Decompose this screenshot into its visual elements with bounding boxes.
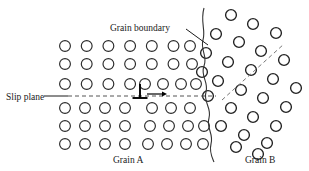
atom-grain-a	[81, 79, 92, 90]
atom-grain-a	[100, 139, 111, 150]
grain-b-label: Grain B	[245, 155, 275, 165]
atom-grain-a	[185, 103, 196, 114]
atom-grain-a	[140, 79, 151, 90]
atom-grain-b	[271, 28, 282, 39]
atom-grain-a	[146, 59, 157, 70]
grain-boundary-label: Grain boundary	[110, 23, 170, 33]
atom-grain-a	[166, 103, 177, 114]
atom-grain-a	[162, 139, 173, 150]
atom-grain-a	[143, 139, 154, 150]
atom-grain-a	[147, 103, 158, 114]
atom-grain-a	[199, 121, 210, 132]
atom-grain-b	[197, 67, 208, 78]
atom-grain-a	[164, 121, 175, 132]
atom-grain-b	[248, 19, 259, 30]
atom-grain-b	[256, 46, 267, 57]
atom-grain-a	[81, 41, 92, 52]
atom-grain-a	[60, 79, 71, 90]
diagram-canvas: Grain boundary Slip plane Grain A Grain …	[0, 0, 309, 171]
atom-grain-b	[231, 142, 242, 153]
atom-grain-a	[176, 79, 187, 90]
grain-a-label: Grain A	[113, 155, 143, 165]
atom-grain-a	[181, 139, 192, 150]
atom-grain-a	[80, 139, 91, 150]
atom-grain-a	[125, 59, 136, 70]
atom-grain-a	[60, 59, 71, 70]
atom-grain-a	[185, 41, 196, 52]
atom-grain-b	[262, 138, 273, 149]
atom-grain-a	[168, 41, 179, 52]
atom-grain-a	[125, 41, 136, 52]
atom-grain-a	[191, 79, 202, 90]
atom-grain-b	[236, 85, 247, 96]
atom-grain-b	[271, 121, 282, 132]
atom-grain-b	[201, 48, 212, 59]
dislocation-motion-arrow	[147, 91, 167, 96]
atom-grain-a	[120, 103, 131, 114]
atom-grain-a	[125, 79, 136, 90]
atom-grain-b	[226, 10, 237, 21]
atom-grain-a	[100, 121, 111, 132]
atom-grain-a	[146, 41, 157, 52]
atom-grain-b	[223, 57, 234, 68]
atom-grain-b	[211, 29, 222, 40]
atom-grain-b	[226, 103, 237, 114]
atom-grain-b	[234, 37, 245, 48]
atom-grain-a	[60, 41, 71, 52]
atom-grain-a	[80, 103, 91, 114]
atom-grain-b	[258, 93, 269, 104]
atom-grain-a	[158, 79, 169, 90]
atom-grain-a	[120, 121, 131, 132]
atom-grain-a	[100, 103, 111, 114]
grain-b-lattice	[197, 10, 302, 160]
atom-grain-a	[60, 103, 71, 114]
atom-grain-a	[120, 139, 131, 150]
atom-grain-a	[103, 59, 114, 70]
grain-boundary-diagram: Grain boundary Slip plane Grain A Grain …	[0, 0, 309, 171]
atom-grain-b	[248, 112, 259, 123]
atom-grain-a	[103, 79, 114, 90]
atom-grain-b	[268, 74, 279, 85]
atom-grain-a	[145, 121, 156, 132]
atom-grain-a	[103, 41, 114, 52]
atom-grain-a	[183, 121, 194, 132]
atom-grain-a	[198, 139, 209, 150]
atom-grain-a	[60, 139, 71, 150]
atom-grain-b	[291, 83, 302, 94]
atom-grain-b	[239, 130, 250, 141]
atom-grain-a	[168, 59, 179, 70]
atom-grain-a	[81, 59, 92, 70]
slip-plane-label: Slip plane	[6, 92, 44, 102]
atom-grain-a	[187, 59, 198, 70]
atom-grain-a	[80, 121, 91, 132]
atom-grain-b	[279, 55, 290, 66]
atom-grain-b	[281, 102, 292, 113]
atom-grain-a	[60, 121, 71, 132]
atom-grain-b	[216, 121, 227, 132]
atom-grain-b	[213, 76, 224, 87]
grain-a-lattice	[60, 41, 210, 150]
